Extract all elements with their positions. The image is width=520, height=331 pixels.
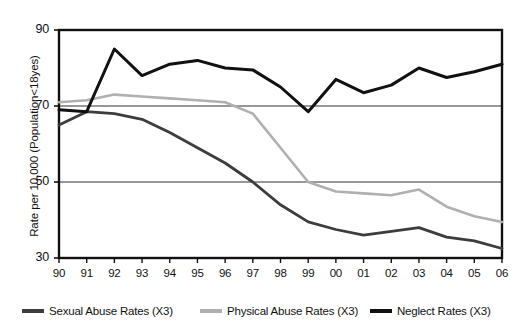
chart-figure: Rate per 10,000 (Population<18yes) 90705… xyxy=(0,0,520,331)
series-line-neglect-rates-x3 xyxy=(59,49,502,112)
axis-frame xyxy=(59,30,502,258)
series-line-physical-abuse-rates-x3 xyxy=(59,95,502,222)
chart-legend: Sexual Abuse Rates (X3)Physical Abuse Ra… xyxy=(0,300,520,322)
legend-swatch-icon xyxy=(200,309,222,313)
legend-swatch-icon xyxy=(370,309,392,313)
legend-swatch-icon xyxy=(22,309,44,313)
legend-label: Neglect Rates (X3) xyxy=(397,305,491,317)
plot-area xyxy=(0,0,520,331)
legend-label: Sexual Abuse Rates (X3) xyxy=(49,305,173,317)
series-line-sexual-abuse-rates-x3 xyxy=(59,112,502,249)
legend-entry-sexual-abuse-rates-x3[interactable]: Sexual Abuse Rates (X3) xyxy=(22,302,173,320)
legend-entry-physical-abuse-rates-x3[interactable]: Physical Abuse Rates (X3) xyxy=(200,302,358,320)
legend-label: Physical Abuse Rates (X3) xyxy=(227,305,358,317)
legend-entry-neglect-rates-x3[interactable]: Neglect Rates (X3) xyxy=(370,302,491,320)
